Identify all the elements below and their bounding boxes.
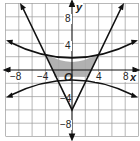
y-tick-minus-4: −4 [59,94,72,104]
x-tick-8: 8 [122,72,130,82]
x-axis-label: x [129,72,137,82]
origin-label: O [63,72,74,82]
y-axis-label: y [75,2,83,12]
x-tick-4: 4 [95,72,103,82]
y-tick-minus-8: −8 [59,120,72,130]
x-tick-minus-8: −8 [9,72,22,82]
x-tick-minus-4: −4 [36,72,49,82]
y-tick-4: 4 [64,41,72,51]
y-tick-8: 8 [64,14,72,24]
